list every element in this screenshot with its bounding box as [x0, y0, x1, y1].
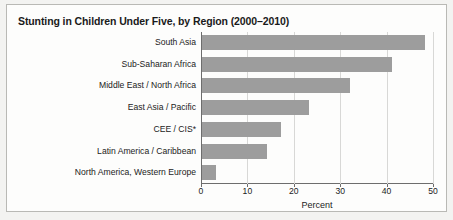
- bar-row[interactable]: CEE / CIS*: [202, 119, 434, 141]
- x-tick-label: 30: [335, 186, 345, 196]
- category-label: Sub-Saharan Africa: [121, 57, 196, 72]
- x-tick-label: 10: [243, 186, 253, 196]
- bar-row[interactable]: Sub-Saharan Africa: [202, 54, 434, 76]
- x-tick-label: 50: [428, 186, 438, 196]
- category-label: South Asia: [155, 35, 196, 50]
- category-label: CEE / CIS*: [153, 122, 196, 137]
- bar-row[interactable]: North America, Western Europe: [202, 162, 434, 184]
- x-tick-label: 40: [382, 186, 392, 196]
- bar[interactable]: [202, 100, 309, 115]
- bar[interactable]: [202, 35, 425, 50]
- bar[interactable]: [202, 144, 267, 159]
- bar-row[interactable]: Latin America / Caribbean: [202, 141, 434, 163]
- bar[interactable]: [202, 165, 216, 180]
- bar-row[interactable]: South Asia: [202, 32, 434, 54]
- x-axis-title: Percent: [301, 200, 332, 210]
- x-tick-label: 20: [289, 186, 299, 196]
- category-label: Latin America / Caribbean: [97, 144, 196, 159]
- x-tick-label: 0: [199, 186, 204, 196]
- category-label: East Asia / Pacific: [128, 100, 196, 115]
- bar[interactable]: [202, 78, 350, 93]
- chart-figure: Stunting in Children Under Five, by Regi…: [6, 4, 447, 212]
- chart-title: Stunting in Children Under Five, by Regi…: [18, 15, 289, 27]
- category-label: Middle East / North Africa: [99, 78, 196, 93]
- bar[interactable]: [202, 122, 281, 137]
- bar-row[interactable]: Middle East / North Africa: [202, 75, 434, 97]
- category-label: North America, Western Europe: [75, 165, 196, 180]
- plot-area: South AsiaSub-Saharan AfricaMiddle East …: [201, 32, 433, 184]
- bar[interactable]: [202, 57, 392, 72]
- bar-row[interactable]: East Asia / Pacific: [202, 97, 434, 119]
